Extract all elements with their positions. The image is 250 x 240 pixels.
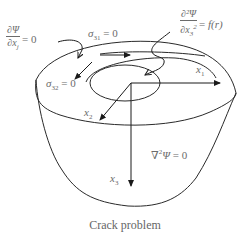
laplace-rhs: = 0 (170, 149, 187, 161)
bc-right-den-sub: 3 (190, 30, 194, 38)
x2-axis-label: x2 (84, 107, 92, 121)
sigma31-label: σ31 = 0 (88, 28, 118, 42)
sigma31-rhs: = 0 (100, 27, 117, 39)
bc-right-leader-arrow (145, 32, 170, 75)
x1-sub: 1 (201, 70, 205, 78)
laplace-operator: ∇ (151, 149, 159, 161)
bc-left-rhs: = 0 (22, 33, 36, 45)
x1-axis-label: x1 (196, 64, 204, 78)
laplace-equation-label: ∇2Ψ = 0 (151, 149, 187, 161)
bc-left-den-sub: j (17, 43, 19, 51)
figure-caption: Crack problem (0, 218, 250, 233)
body-left-side (36, 80, 236, 206)
sigma32-rhs: = 0 (58, 77, 75, 89)
sigma32-label: σ32 = 0 (46, 78, 76, 92)
laplace-var: Ψ (162, 149, 170, 161)
bc-left-leader-arrow (58, 40, 82, 58)
x2-sub: 2 (89, 113, 93, 121)
bc-right-rhs-eq: = (199, 18, 208, 30)
bc-left-numerator: ∂Ψ (6, 24, 20, 37)
bc-right-numerator: ∂²Ψ (180, 8, 197, 21)
bc-left-denominator: ∂x (7, 37, 16, 48)
bc-right-rhs-fn: f(r) (208, 18, 223, 30)
x3-axis-label: x3 (110, 173, 118, 187)
x2-axis-arrow (100, 83, 131, 120)
x3-sub: 3 (115, 179, 119, 187)
bc-right-denominator: ∂x (180, 24, 189, 35)
bc-normal-derivative-label: ∂Ψ ∂xj = 0 (6, 24, 36, 53)
bc-second-derivative-label: ∂²Ψ ∂x32 = f(r) (180, 8, 223, 40)
bc-right-den-sup: 2 (193, 23, 197, 31)
